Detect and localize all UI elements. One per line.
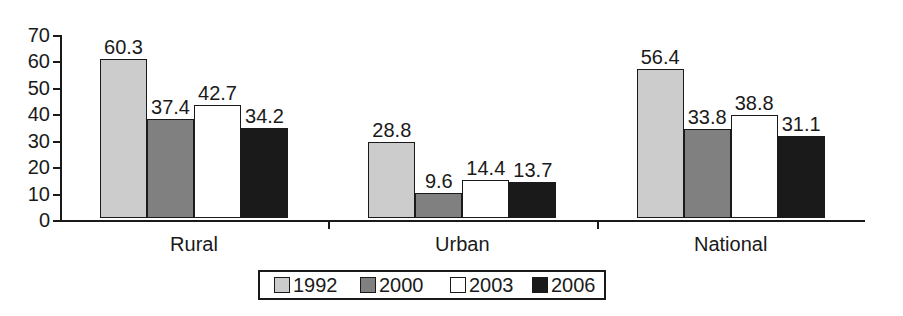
legend-swatch-1992 bbox=[274, 277, 290, 293]
bar-urban-2003 bbox=[462, 180, 509, 218]
bar-rural-2000 bbox=[147, 119, 194, 218]
bar-national-2000 bbox=[684, 129, 731, 218]
bar-label-rural-2000: 37.4 bbox=[151, 97, 190, 117]
y-tick-mark bbox=[53, 88, 60, 90]
legend-label-2006: 2006 bbox=[551, 275, 596, 295]
y-tick-mark bbox=[53, 35, 60, 37]
y-tick-label: 20 bbox=[28, 157, 50, 177]
category-label-urban: Urban bbox=[435, 234, 489, 254]
bar-national-2003 bbox=[731, 115, 778, 218]
bar-rural-2006 bbox=[241, 128, 288, 218]
legend-swatch-2006 bbox=[532, 277, 548, 293]
x-axis-separator bbox=[328, 220, 330, 229]
bar-label-urban-1992: 28.8 bbox=[372, 120, 411, 140]
bar-label-urban-2000: 9.6 bbox=[425, 171, 453, 191]
bar-label-rural-2006: 34.2 bbox=[245, 106, 284, 126]
y-tick-mark bbox=[53, 194, 60, 196]
legend-label-2003: 2003 bbox=[469, 275, 514, 295]
bar-label-national-2006: 31.1 bbox=[782, 114, 821, 134]
y-tick-mark bbox=[53, 141, 60, 143]
bar-urban-2000 bbox=[415, 193, 462, 218]
y-tick-label: 0 bbox=[39, 210, 50, 230]
bar-label-national-1992: 56.4 bbox=[641, 47, 680, 67]
bar-label-national-2000: 33.8 bbox=[688, 107, 727, 127]
legend-item-2000[interactable]: 2000 bbox=[360, 272, 424, 298]
y-tick-mark bbox=[53, 114, 60, 116]
y-axis-line bbox=[60, 35, 62, 221]
y-tick-mark bbox=[53, 220, 60, 222]
x-axis-line bbox=[60, 220, 865, 222]
bar-rural-1992 bbox=[100, 59, 147, 218]
legend-item-1992[interactable]: 1992 bbox=[274, 272, 338, 298]
bar-national-1992 bbox=[637, 69, 684, 218]
category-label-national: National bbox=[694, 234, 767, 254]
legend-swatch-2000 bbox=[360, 277, 376, 293]
chart-legend: 1992200020032006 bbox=[258, 270, 606, 300]
bar-label-urban-2003: 14.4 bbox=[466, 158, 505, 178]
category-label-rural: Rural bbox=[170, 234, 218, 254]
bar-rural-2003 bbox=[194, 105, 241, 218]
x-axis-separator bbox=[597, 220, 599, 229]
y-tick-label: 10 bbox=[28, 184, 50, 204]
y-tick-label: 30 bbox=[28, 131, 50, 151]
bar-chart-figure: 010203040506070 60.337.442.734.228.89.61… bbox=[0, 0, 903, 316]
legend-label-1992: 1992 bbox=[293, 275, 338, 295]
legend-item-2006[interactable]: 2006 bbox=[532, 272, 596, 298]
legend-item-2003[interactable]: 2003 bbox=[450, 272, 514, 298]
y-tick-mark bbox=[53, 61, 60, 63]
plot-area: 010203040506070 60.337.442.734.228.89.61… bbox=[60, 35, 865, 220]
y-tick-label: 50 bbox=[28, 78, 50, 98]
y-tick-mark bbox=[53, 167, 60, 169]
bar-label-rural-1992: 60.3 bbox=[104, 37, 143, 57]
y-tick-label: 40 bbox=[28, 104, 50, 124]
bar-national-2006 bbox=[778, 136, 825, 218]
bar-label-urban-2006: 13.7 bbox=[513, 160, 552, 180]
bar-urban-2006 bbox=[509, 182, 556, 218]
legend-swatch-2003 bbox=[450, 277, 466, 293]
y-tick-label: 70 bbox=[28, 25, 50, 45]
bar-label-rural-2003: 42.7 bbox=[198, 83, 237, 103]
bar-label-national-2003: 38.8 bbox=[735, 93, 774, 113]
y-tick-label: 60 bbox=[28, 51, 50, 71]
bar-urban-1992 bbox=[368, 142, 415, 218]
legend-label-2000: 2000 bbox=[379, 275, 424, 295]
